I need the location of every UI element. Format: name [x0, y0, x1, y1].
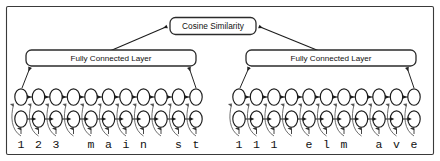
left-backward-node	[137, 89, 149, 105]
left-char: m	[88, 138, 95, 151]
left-forward-node	[155, 111, 167, 127]
right-forward-node	[390, 111, 402, 127]
right-fc-input-left-diagonal	[240, 68, 249, 89]
right-char: 1	[253, 138, 260, 151]
right-backward-node	[303, 89, 315, 105]
left-backward-node	[190, 89, 202, 105]
right-backward-node	[373, 89, 385, 105]
right-char: l	[323, 138, 330, 151]
right-fully-connected-layer: Fully Connected Layer	[246, 50, 416, 66]
figure-container: Cosine Similarity Fully Connected Layer	[0, 0, 440, 161]
left-forward-node	[137, 111, 149, 127]
right-sequence-characters: 1 1 1 e l m a v e	[236, 138, 418, 151]
left-backward-node	[172, 89, 184, 105]
right-char: 1	[271, 138, 278, 151]
left-forward-node	[190, 111, 202, 127]
left-char: i	[123, 138, 130, 151]
right-char: 1	[236, 138, 243, 151]
left-fc-label: Fully Connected Layer	[71, 54, 152, 63]
left-forward-node	[15, 111, 27, 127]
diagram-svg: Cosine Similarity Fully Connected Layer	[0, 0, 440, 161]
right-backward-node	[355, 89, 367, 105]
right-rnn-forward-row	[233, 111, 420, 127]
right-char: m	[341, 138, 348, 151]
left-forward-node	[50, 111, 62, 127]
cosine-similarity-node: Cosine Similarity	[170, 18, 256, 35]
left-backward-node	[32, 89, 44, 105]
right-backward-node	[320, 89, 332, 105]
left-forward-node	[32, 111, 44, 127]
left-fc-input-left-diagonal	[22, 68, 30, 89]
right-forward-node	[303, 111, 315, 127]
right-backward-node	[285, 89, 297, 105]
left-forward-node	[67, 111, 79, 127]
left-forward-node	[102, 111, 114, 127]
right-backward-node	[268, 89, 280, 105]
right-fc-label: Fully Connected Layer	[291, 54, 372, 63]
right-forward-node	[233, 111, 245, 127]
left-input-to-forward-arrows	[21, 129, 196, 135]
right-forward-node	[268, 111, 280, 127]
left-char: a	[105, 138, 112, 151]
left-char: 1	[18, 138, 25, 151]
left-char: 2	[35, 138, 42, 151]
cosine-similarity-label: Cosine Similarity	[182, 21, 245, 31]
right-char: v	[393, 138, 400, 151]
left-backward-node	[155, 89, 167, 105]
left-fully-connected-layer: Fully Connected Layer	[26, 50, 196, 66]
right-branch-to-cosine-arrow	[259, 27, 318, 51]
right-forward-node	[355, 111, 367, 127]
left-char: 3	[53, 138, 60, 151]
left-backward-node	[15, 89, 27, 105]
left-backward-node	[85, 89, 97, 105]
left-char: t	[193, 138, 200, 151]
right-rnn-backward-row	[233, 89, 420, 105]
left-backward-node	[102, 89, 114, 105]
left-forward-node	[85, 111, 97, 127]
left-branch-to-cosine-arrow	[111, 27, 167, 51]
right-char: e	[306, 138, 313, 151]
right-forward-node	[338, 111, 350, 127]
left-forward-node	[120, 111, 132, 127]
left-rnn-backward-row	[15, 89, 202, 105]
left-backward-node	[67, 89, 79, 105]
right-backward-node	[390, 89, 402, 105]
left-backward-node	[120, 89, 132, 105]
right-input-to-forward-arrows	[239, 129, 414, 135]
right-backward-node	[250, 89, 262, 105]
left-sequence-characters: 1 2 3 m a i n s t	[18, 138, 200, 151]
left-char: s	[175, 138, 182, 151]
branch-left: Fully Connected Layer	[12, 50, 202, 151]
right-backward-node	[233, 89, 245, 105]
left-char: n	[140, 138, 147, 151]
left-forward-node	[172, 111, 184, 127]
branch-right: Fully Connected Layer	[230, 50, 420, 151]
right-fc-input-right-diagonal	[407, 68, 414, 89]
right-forward-node	[408, 111, 420, 127]
right-forward-node	[250, 111, 262, 127]
right-backward-node	[338, 89, 350, 105]
left-fc-input-right-diagonal	[189, 68, 196, 89]
right-char: e	[411, 138, 418, 151]
left-rnn-forward-row	[15, 111, 202, 127]
right-char: a	[376, 138, 383, 151]
right-forward-node	[373, 111, 385, 127]
right-forward-node	[285, 111, 297, 127]
right-forward-node	[320, 111, 332, 127]
right-backward-node	[408, 89, 420, 105]
left-backward-node	[50, 89, 62, 105]
